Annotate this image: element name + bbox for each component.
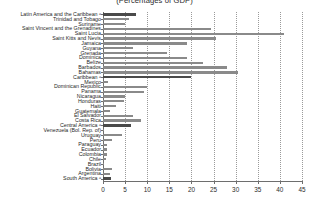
bar [103,115,133,117]
bar [103,134,122,136]
gridline-30 [236,12,237,181]
bar [103,71,238,73]
bar [103,124,131,127]
bar [103,168,112,170]
bar [103,76,191,79]
bar [103,95,125,97]
x-tick-mark-25 [214,181,215,184]
bar [103,86,147,88]
category-label: South America ᵃ [0,176,101,182]
x-tick-label-45: 45 [298,186,305,193]
bar [103,28,211,30]
x-tick-mark-5 [125,181,126,184]
chart-title: (Percentages of GDP) [0,0,309,5]
x-tick-mark-10 [147,181,148,184]
bar [103,148,107,150]
x-tick-label-20: 20 [188,186,195,193]
bar [103,153,107,155]
bar [103,62,203,64]
x-tick-label-25: 25 [210,186,217,193]
bar [103,173,110,175]
x-tick-label-15: 15 [166,186,173,193]
bar [103,42,187,44]
gridline-35 [258,12,259,181]
bar [103,18,129,20]
bar [103,119,141,121]
bar [103,13,136,16]
bar [103,110,110,112]
x-tick-label-5: 5 [123,186,127,193]
bar [103,23,125,25]
bar [103,177,111,180]
x-tick-mark-20 [191,181,192,184]
x-tick-label-0: 0 [101,186,105,193]
bar [103,105,116,107]
bar [103,52,167,54]
bar [103,91,144,93]
bar [103,33,284,35]
bar [103,144,107,146]
x-tick-mark-30 [236,181,237,184]
x-tick-label-40: 40 [276,186,283,193]
gridline-45 [302,12,303,181]
x-tick-mark-40 [280,181,281,184]
x-tick-mark-35 [258,181,259,184]
x-tick-label-30: 30 [232,186,239,193]
bar [103,66,227,68]
bar [103,81,108,83]
bar [103,139,112,141]
bar [103,158,106,160]
bar [103,163,104,165]
x-tick-mark-45 [302,181,303,184]
bar [103,37,216,39]
x-axis-line [103,181,302,182]
x-tick-label-10: 10 [144,186,151,193]
bar-chart: (Percentages of GDP) Latin America and t… [0,0,309,202]
x-tick-mark-15 [169,181,170,184]
bar [103,57,187,59]
x-tick-label-35: 35 [254,186,261,193]
gridline-40 [280,12,281,181]
bar [103,129,104,131]
bar [103,100,124,102]
x-tick-mark-0 [103,181,104,184]
bar [103,47,133,49]
